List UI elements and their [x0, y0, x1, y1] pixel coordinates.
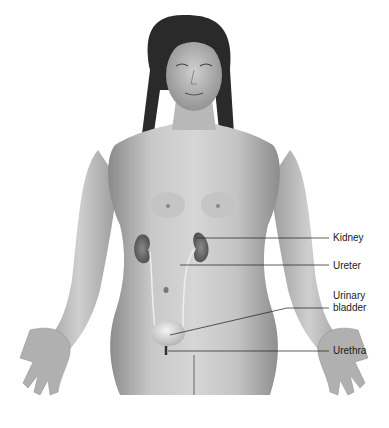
label-urethra: Urethra — [333, 345, 366, 357]
left-arm — [40, 150, 118, 360]
face — [166, 39, 222, 111]
label-urinary: Urinary — [333, 290, 365, 302]
anatomy-illustration — [0, 0, 389, 428]
label-bladder: bladder — [333, 302, 366, 314]
navel — [164, 287, 169, 293]
label-ureter: Ureter — [333, 260, 361, 272]
torso — [108, 124, 280, 395]
left-hand — [20, 328, 70, 395]
right-arm — [270, 150, 348, 360]
right-hand — [318, 328, 368, 395]
label-kidney: Kidney — [333, 232, 364, 244]
